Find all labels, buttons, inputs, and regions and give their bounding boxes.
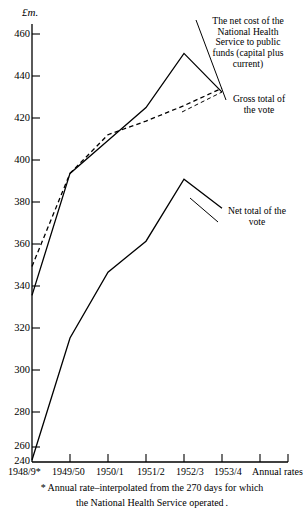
series-line-net-total bbox=[32, 179, 222, 460]
gross-total-annotation-line-2: the vote bbox=[244, 104, 275, 115]
x-axis-ticks bbox=[70, 454, 288, 462]
net-total-annotation: Net total of the vote bbox=[214, 206, 300, 227]
y-axis-ticks bbox=[32, 34, 40, 447]
net-cost-annotation-line-3: Service to public bbox=[215, 36, 280, 47]
series-line-net-cost bbox=[32, 88, 222, 266]
net-cost-annotation-line-1: The net cost of the bbox=[212, 15, 283, 26]
x-tick-label-1949-50: 1949/50 bbox=[52, 466, 85, 477]
net-cost-annotation-line-2: National Health bbox=[217, 26, 278, 37]
net-total-annotation-line-2: vote bbox=[249, 216, 266, 227]
net-total-annotation-line-1: Net total of the bbox=[228, 205, 286, 216]
x-tick-label-1950-1: 1950/1 bbox=[96, 466, 124, 477]
leader-line-gross-total bbox=[182, 92, 222, 112]
net-cost-annotation: The net cost of the National Health Serv… bbox=[196, 16, 300, 70]
x-tick-label-1951-2: 1951/2 bbox=[137, 466, 165, 477]
net-cost-annotation-line-4: funds (capital plus bbox=[213, 47, 284, 58]
x-tick-label-1952-3: 1952/3 bbox=[176, 466, 204, 477]
footnote-line-2: the National Health Service operated . bbox=[0, 497, 304, 510]
footnote-line-1: * Annual rate–interpolated from the 270 … bbox=[0, 482, 304, 495]
chart-figure: £m. 460 440 420 400 380 360 340 320 300 … bbox=[0, 0, 304, 518]
gross-total-annotation: Gross total of the vote bbox=[218, 94, 300, 115]
series-line-gross-total bbox=[32, 53, 222, 295]
x-tick-label-1953-4: 1953/4 bbox=[214, 466, 242, 477]
x-tick-label-1948-9: 1948/9* bbox=[8, 466, 41, 477]
gross-total-annotation-line-1: Gross total of bbox=[233, 93, 285, 104]
plot-canvas bbox=[0, 0, 304, 518]
net-cost-annotation-line-5: current) bbox=[233, 58, 263, 69]
x-axis-caption: Annual rates bbox=[252, 466, 303, 477]
